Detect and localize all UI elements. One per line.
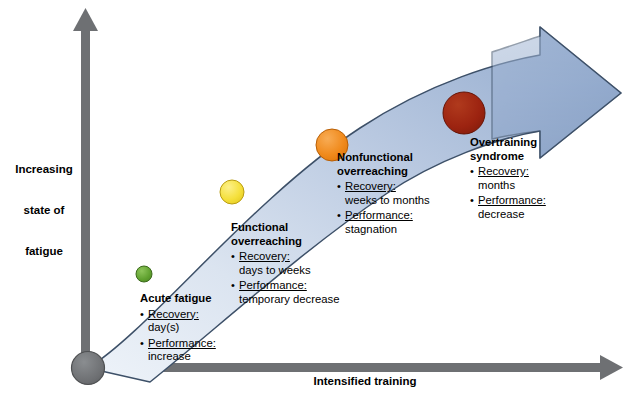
marker-overtraining-syndrome[interactable]	[443, 92, 485, 134]
performance-value: stagnation	[345, 223, 477, 237]
performance-label: Performance:	[478, 194, 546, 206]
figure-canvas: Increasing state of fatigue Intensified …	[0, 0, 635, 407]
stage-title-functional-overreaching-line-2: overreaching	[231, 235, 366, 249]
performance-label: Performance:	[148, 337, 216, 349]
y-axis-label: Increasing state of fatigue	[6, 136, 82, 285]
recovery-value: months	[478, 179, 590, 193]
stage-title-nonfunctional-overreaching-line-1: Nonfunctional	[337, 151, 477, 165]
stage-performance-nonfunctional-overreaching: Performance: stagnation	[337, 209, 477, 236]
stage-recovery-acute-fatigue: Recovery: day(s)	[140, 308, 260, 335]
recovery-value: weeks to months	[345, 194, 477, 208]
recovery-value: day(s)	[148, 321, 260, 335]
stage-recovery-overtraining-syndrome: Recovery: months	[470, 165, 590, 192]
stage-title-overtraining-syndrome-line-1: Overtraining	[470, 136, 590, 150]
performance-value: temporary decrease	[239, 293, 366, 307]
stage-recovery-nonfunctional-overreaching: Recovery: weeks to months	[337, 180, 477, 207]
recovery-label: Recovery:	[148, 308, 199, 320]
recovery-value: days to weeks	[239, 264, 366, 278]
y-axis-label-line-3: fatigue	[6, 245, 82, 259]
marker-acute-fatigue[interactable]	[136, 266, 152, 282]
performance-value: increase	[148, 350, 260, 364]
performance-label: Performance:	[239, 279, 307, 291]
recovery-label: Recovery:	[239, 250, 290, 262]
stage-block-nonfunctional-overreaching: Nonfunctional overreaching Recovery: wee…	[337, 151, 477, 236]
stage-block-overtraining-syndrome: Overtraining syndrome Recovery: months P…	[470, 136, 590, 221]
stage-performance-overtraining-syndrome: Performance: decrease	[470, 194, 590, 221]
x-axis-label: Intensified training	[300, 375, 430, 389]
performance-label: Performance:	[345, 209, 413, 221]
stage-title-nonfunctional-overreaching-line-2: overreaching	[337, 165, 477, 179]
stage-title-overtraining-syndrome-line-2: syndrome	[470, 150, 590, 164]
y-axis-label-line-2: state of	[6, 204, 82, 218]
origin-node	[72, 352, 105, 385]
recovery-label: Recovery:	[478, 165, 529, 177]
performance-value: decrease	[478, 208, 590, 222]
recovery-label: Recovery:	[345, 180, 396, 192]
stage-performance-functional-overreaching: Performance: temporary decrease	[231, 279, 366, 306]
stage-performance-acute-fatigue: Performance: increase	[140, 337, 260, 364]
marker-functional-overreaching[interactable]	[220, 180, 244, 204]
y-axis-label-line-1: Increasing	[6, 163, 82, 177]
stage-recovery-functional-overreaching: Recovery: days to weeks	[231, 250, 366, 277]
